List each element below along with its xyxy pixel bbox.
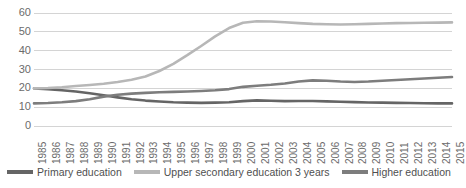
legend-item-0[interactable]: Primary education <box>7 166 122 178</box>
series-line-2 <box>34 77 452 103</box>
x-axis-tick-label: 1991 <box>122 142 132 164</box>
legend-item-1[interactable]: Upper secondary education 3 years <box>134 166 330 178</box>
x-axis-tick-label: 1998 <box>219 142 229 164</box>
x-axis-tick-label: 1997 <box>205 142 215 164</box>
x-axis-tick-label: 2001 <box>261 142 271 164</box>
x-axis-tick-label: 2011 <box>400 142 410 164</box>
x-axis-tick-label: 2013 <box>428 142 438 164</box>
legend-swatch-icon <box>134 170 160 174</box>
legend-item-2[interactable]: Higher education <box>342 166 451 178</box>
x-axis-tick-label: 2014 <box>442 142 452 164</box>
x-axis-tick-label: 2010 <box>386 142 396 164</box>
plot-area: 0102030405060 <box>0 0 458 132</box>
x-axis-tick-label: 1993 <box>149 142 159 164</box>
x-axis-tick-label: 2006 <box>331 142 341 164</box>
x-axis-tick-label: 2002 <box>275 142 285 164</box>
x-axis-tick-labels: 1985198619871988198919901991199219931994… <box>0 126 458 168</box>
x-axis-tick-label: 1988 <box>80 142 90 164</box>
legend-swatch-icon <box>7 170 33 174</box>
x-axis-tick-label: 2015 <box>456 142 466 164</box>
x-axis-tick-label: 1985 <box>38 142 48 164</box>
x-axis-tick-label: 2003 <box>289 142 299 164</box>
legend-swatch-icon <box>342 170 368 174</box>
chart-canvas <box>0 0 458 132</box>
series-line-0 <box>34 88 452 103</box>
gridlines <box>34 13 452 126</box>
x-axis-tick-label: 1996 <box>191 142 201 164</box>
x-axis-tick-label: 1999 <box>233 142 243 164</box>
x-axis-tick-label: 2004 <box>303 142 313 164</box>
x-axis-tick-label: 1987 <box>66 142 76 164</box>
x-axis-tick-label: 2012 <box>414 142 424 164</box>
legend-label: Higher education <box>372 166 451 178</box>
series-lines <box>34 21 452 103</box>
x-axis-tick-label: 2000 <box>247 142 257 164</box>
x-axis-tick-label: 1986 <box>52 142 62 164</box>
x-axis-tick-label: 1994 <box>163 142 173 164</box>
legend-label: Upper secondary education 3 years <box>164 166 330 178</box>
x-axis-tick-label: 1989 <box>94 142 104 164</box>
x-axis-tick-label: 1990 <box>108 142 118 164</box>
x-axis-tick-label: 2009 <box>372 142 382 164</box>
chart-legend: Primary educationUpper secondary educati… <box>0 166 458 188</box>
x-axis-tick-label: 1992 <box>136 142 146 164</box>
x-axis-tick-label: 1995 <box>177 142 187 164</box>
x-axis-tick-label: 2005 <box>317 142 327 164</box>
x-axis-tick-label: 2008 <box>358 142 368 164</box>
legend-label: Primary education <box>37 166 122 178</box>
x-axis-tick-label: 2007 <box>345 142 355 164</box>
